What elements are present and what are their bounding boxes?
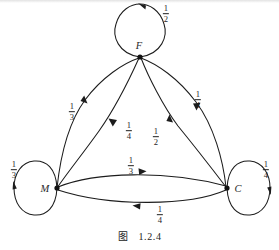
edge-label-M-to-C: 1 3: [128, 156, 134, 176]
caption-number: 1.2.4: [139, 231, 162, 242]
edge-label-C-to-M-denominator: 4: [157, 216, 163, 225]
edge-label-F-to-M-denominator: 4: [126, 132, 132, 141]
node-label-C: C: [234, 183, 241, 194]
edge-C-to-F-path: [141, 58, 226, 187]
loop-label-M: 1 3: [11, 160, 17, 180]
edge-M-to-C-arrowhead: [139, 168, 147, 175]
edge-C-to-F-arrowhead: [166, 115, 173, 123]
edge-label-C-to-M-numerator: 1: [157, 205, 163, 214]
edge-M-to-C-path: [58, 175, 226, 187]
edge-label-F-to-M-numerator: 1: [126, 121, 132, 130]
self-loop-M-path: [14, 161, 57, 215]
loop-label-M-denominator: 3: [11, 171, 17, 180]
edge-F-to-C: [141, 58, 226, 187]
edge-C-to-F: [141, 58, 226, 187]
caption-word: 图: [118, 228, 128, 243]
edge-label-M-to-C-denominator: 3: [128, 167, 134, 176]
loop-label-C-numerator: 1: [263, 160, 269, 169]
loop-label-C: 1 4: [263, 160, 269, 180]
edge-label-F-to-C-numerator: 1: [195, 90, 201, 99]
node-dot-C[interactable]: [224, 185, 229, 190]
edge-label-C-to-M: 1 4: [157, 205, 163, 225]
edge-label-F-to-C-denominator: 4: [195, 101, 201, 110]
edge-label-M-to-F-numerator: 1: [69, 102, 75, 111]
edge-label-M-to-F-denominator: 3: [69, 113, 75, 122]
node-label-M: M: [41, 183, 50, 194]
loop-label-M-numerator: 1: [11, 160, 17, 169]
edge-label-C-to-F: 1 2: [153, 127, 159, 147]
edge-label-C-to-F-numerator: 1: [153, 127, 159, 136]
figure-caption: 图1.2.4: [0, 228, 279, 243]
edge-F-to-M-arrowhead: [109, 119, 118, 127]
edge-label-C-to-F-denominator: 2: [153, 138, 159, 147]
loop-label-F: 1 2: [163, 4, 169, 24]
loop-label-F-numerator: 1: [163, 4, 169, 13]
node-dot-M[interactable]: [54, 185, 59, 190]
self-loop-M: [13, 161, 57, 215]
edge-C-to-M-path: [58, 190, 226, 202]
edge-label-M-to-F: 1 3: [69, 102, 75, 122]
state-transition-graph: [0, 0, 279, 250]
edge-M-to-C: [58, 168, 226, 187]
edge-label-F-to-C: 1 4: [195, 90, 201, 110]
edge-C-to-M-arrowhead: [133, 203, 141, 209]
loop-label-F-denominator: 2: [163, 15, 169, 24]
node-dot-F[interactable]: [137, 54, 142, 59]
edge-F-to-C-path: [141, 58, 226, 187]
edge-label-F-to-M: 1 4: [126, 121, 132, 141]
loop-label-C-denominator: 4: [263, 171, 269, 180]
node-label-F: F: [136, 40, 143, 51]
edge-C-to-M: [58, 190, 226, 209]
edge-label-M-to-C-numerator: 1: [128, 156, 134, 165]
figure-container: F M C 1 2 1 3 1 4 1 3 1 4 1 4 1 2 1: [0, 0, 279, 250]
